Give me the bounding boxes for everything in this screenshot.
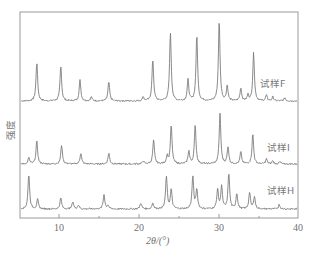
trace-h: [21, 174, 297, 209]
x-tick-label-20: 20: [134, 222, 144, 233]
traces-group: [21, 23, 297, 209]
x-axis-label: 2θ/(°): [146, 235, 170, 247]
x-tick-label-30: 30: [214, 222, 224, 233]
x-tick-label-40: 40: [293, 222, 303, 233]
x-tick-label-10: 10: [54, 222, 64, 233]
x-axis: 10 20 30 40 2θ/(°): [54, 214, 303, 247]
trace-f: [21, 23, 297, 101]
trace-i: [21, 113, 297, 165]
series-label-h: 试样H: [267, 185, 294, 196]
y-axis-label: 强度: [5, 120, 16, 140]
xrd-chart: 10 20 30 40 2θ/(°) 强度 试样F 试样I 试样H: [0, 0, 311, 258]
plot-frame: [20, 12, 298, 218]
series-label-i: 试样I: [267, 142, 290, 153]
series-label-f: 试样F: [260, 78, 285, 89]
